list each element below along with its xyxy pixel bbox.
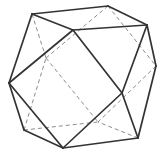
visible-edge-FG [24, 130, 63, 148]
visible-edge-KC [122, 25, 147, 93]
visible-edge-IK [73, 30, 122, 93]
visible-edge-IA [32, 14, 73, 30]
visible-edge-FH [9, 83, 63, 148]
visible-edge-DE [138, 66, 156, 138]
cuboctahedron-figure [0, 0, 167, 155]
polyhedron-diagram [0, 0, 167, 155]
hidden-edge-BJ [46, 6, 108, 58]
visible-edge-KF [63, 93, 122, 148]
visible-edge-CD [147, 25, 156, 66]
visible-edge-EF [63, 138, 138, 148]
hidden-edge-EL [98, 122, 138, 138]
visible-edge-EK [122, 93, 138, 138]
visible-edge-AB [32, 6, 108, 14]
visible-edge-BC [108, 6, 147, 25]
hidden-edge-JL [46, 58, 98, 122]
visible-edge-GH [9, 83, 24, 130]
hidden-edge-AJ [32, 14, 46, 58]
